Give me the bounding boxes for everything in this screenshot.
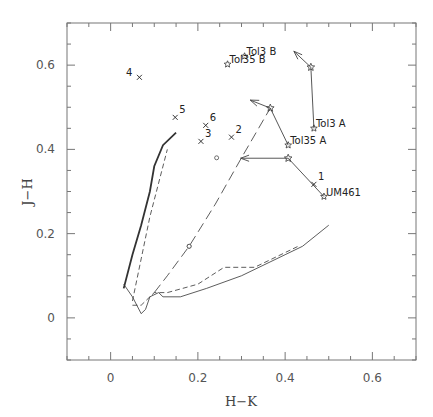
- track-line: [124, 133, 176, 289]
- point-label: 5: [179, 104, 185, 115]
- x-tick-label: 0.4: [276, 371, 295, 385]
- galaxy-label: Tol3 A: [315, 118, 346, 129]
- point-label: 1: [318, 171, 324, 182]
- axis-ticks: 00.20.40.600.20.40.6: [36, 23, 416, 385]
- galaxy-label: Tol35 A: [289, 135, 326, 146]
- cross-marker-icon: [198, 139, 203, 144]
- track-line: [124, 225, 329, 313]
- cross-marker-icon: [229, 135, 234, 140]
- vector-line: [270, 108, 288, 145]
- point-label: 3: [205, 128, 211, 139]
- x-tick-label: 0.6: [363, 371, 382, 385]
- y-tick-label: 0: [47, 311, 55, 325]
- correction-vectors: [241, 51, 324, 196]
- point-label: 2: [235, 124, 241, 135]
- track-circle-marker: [187, 244, 191, 248]
- galaxy-label: UM461: [326, 187, 361, 198]
- vector-line: [311, 67, 314, 128]
- track-line: [132, 246, 298, 305]
- y-axis-label: J−H: [20, 178, 35, 207]
- data-points: 123456UM461Tol35 ATol3 ATol3 BTol35 B: [126, 46, 361, 199]
- color-color-diagram: 00.20.40.600.20.40.6 123456UM461Tol35 AT…: [0, 0, 433, 417]
- x-axis-label: H−K: [225, 394, 257, 409]
- arrow-shaft: [294, 51, 311, 67]
- y-tick-label: 0.2: [36, 227, 55, 241]
- track-line: [132, 149, 167, 301]
- y-tick-label: 0.4: [36, 142, 55, 156]
- cross-marker-icon: [137, 75, 142, 80]
- point-label: 4: [126, 67, 132, 78]
- track-circle-marker: [215, 156, 219, 160]
- cross-marker-icon: [173, 115, 178, 120]
- galaxy-label: Tol35 B: [229, 54, 266, 65]
- plot-border: [67, 23, 416, 360]
- cross-marker-icon: [203, 123, 208, 128]
- point-label: 6: [210, 112, 216, 123]
- plot-frame: [67, 23, 416, 360]
- x-tick-label: 0.2: [188, 371, 207, 385]
- y-tick-label: 0.6: [36, 58, 55, 72]
- x-tick-label: 0: [107, 371, 115, 385]
